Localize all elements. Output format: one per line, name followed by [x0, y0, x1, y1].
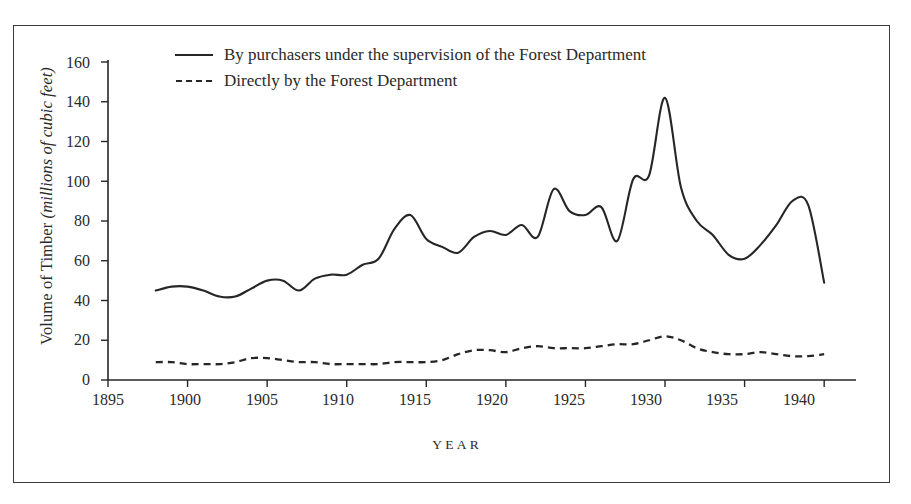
y-tick-label-40: 40	[46, 293, 90, 309]
x-tick-label-1910: 1910	[303, 392, 373, 408]
x-tick-label-1935: 1935	[687, 392, 757, 408]
x-axis-title: YEAR	[0, 437, 911, 453]
x-tick-label-1920: 1920	[457, 392, 527, 408]
legend-item-purchasers: By purchasers under the supervision of t…	[175, 42, 646, 68]
x-tick-label-1930: 1930	[611, 392, 681, 408]
y-tick-label-120: 120	[46, 134, 90, 150]
legend-label-purchasers: By purchasers under the supervision of t…	[224, 45, 646, 65]
y-tick-label-20: 20	[46, 332, 90, 348]
y-axis-title-main: Volume of Timber	[37, 218, 56, 345]
y-tick-label-160: 160	[46, 55, 90, 71]
y-axis-title: Volume of Timber (millions of cubic feet…	[37, 41, 57, 371]
legend-dashed-line-icon	[175, 74, 213, 88]
x-tick-label-1925: 1925	[534, 392, 604, 408]
chart-legend: By purchasers under the supervision of t…	[175, 42, 646, 94]
y-tick-label-140: 140	[46, 94, 90, 110]
x-tick-label-1915: 1915	[380, 392, 450, 408]
y-tick-label-0: 0	[46, 372, 90, 388]
y-tick-label-60: 60	[46, 253, 90, 269]
legend-item-direct: Directly by the Forest Department	[175, 68, 646, 94]
x-tick-label-1895: 1895	[73, 392, 143, 408]
legend-label-direct: Directly by the Forest Department	[224, 71, 457, 91]
x-tick-label-1940: 1940	[764, 392, 834, 408]
legend-solid-line-icon	[175, 48, 213, 62]
y-tick-label-100: 100	[46, 174, 90, 190]
x-tick-label-1900: 1900	[150, 392, 220, 408]
y-tick-label-80: 80	[46, 213, 90, 229]
figure-container: Volume of Timber (millions of cubic feet…	[0, 0, 911, 504]
x-tick-label-1905: 1905	[227, 392, 297, 408]
